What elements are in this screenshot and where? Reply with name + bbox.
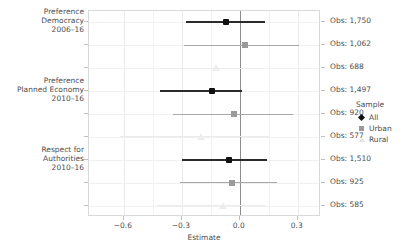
- obs-count-label: Obs: 1,750: [330, 16, 371, 25]
- estimate-point-marker: [229, 180, 235, 186]
- y-axis-tick: [84, 159, 88, 160]
- confidence-interval-bar: [157, 205, 265, 206]
- legend-item-urban[interactable]: Urban: [356, 123, 392, 134]
- x-axis-tick-label: 0.0: [219, 221, 259, 230]
- y-axis-label-line: Authorities: [4, 154, 84, 163]
- x-axis-tick-label: −0.3: [161, 221, 201, 230]
- confidence-interval-bar: [120, 136, 269, 137]
- y-axis-tick-minor: [84, 182, 88, 183]
- obs-axis-tick: [321, 113, 325, 114]
- y-axis-label-line: Respect for: [4, 145, 84, 154]
- obs-axis-tick: [321, 21, 325, 22]
- x-axis-tick: [297, 216, 298, 220]
- plot-area: [89, 11, 319, 215]
- estimate-point-marker: [231, 111, 237, 117]
- estimate-row: [89, 82, 319, 100]
- confidence-interval-bar: [157, 68, 263, 69]
- estimate-point-marker: [219, 202, 227, 209]
- y-axis-label-line: Preference: [4, 76, 84, 85]
- legend-item-rural[interactable]: Rural: [356, 134, 392, 145]
- legend-label-urban: Urban: [369, 124, 392, 133]
- y-axis-group-label: PreferencePlanned Economy2010–16: [4, 76, 84, 103]
- legend-item-all[interactable]: All: [356, 112, 392, 123]
- legend: Sample All Urban Rural: [356, 100, 392, 145]
- x-axis-tick-label: −0.6: [103, 221, 143, 230]
- legend-label-rural: Rural: [369, 135, 388, 144]
- x-axis-tick: [239, 216, 240, 220]
- y-axis-tick: [84, 90, 88, 91]
- y-axis-tick-minor: [84, 67, 88, 68]
- y-axis-group-label: PreferenceDemocracy2006–16: [4, 7, 84, 34]
- obs-count-label: Obs: 1,062: [330, 39, 371, 48]
- obs-count-label: Obs: 1,510: [330, 154, 371, 163]
- estimate-row: [89, 105, 319, 123]
- obs-count-label: Obs: 925: [330, 177, 364, 186]
- diamond-marker-icon: [356, 115, 367, 120]
- x-axis-tick-label: 0.3: [277, 221, 317, 230]
- estimate-point-marker: [212, 64, 220, 71]
- y-axis-label-line: 2010–16: [4, 94, 84, 103]
- y-axis-label-line: 2006–16: [4, 25, 84, 34]
- y-axis-tick: [84, 21, 88, 22]
- legend-label-all: All: [369, 113, 378, 122]
- y-axis-tick-minor: [84, 136, 88, 137]
- estimate-row: [89, 59, 319, 77]
- obs-axis-tick: [321, 182, 325, 183]
- estimate-point-marker: [223, 19, 229, 25]
- x-axis-title: Estimate: [88, 233, 320, 242]
- estimate-point-marker: [209, 88, 215, 94]
- obs-axis-tick: [321, 205, 325, 206]
- obs-count-label: Obs: 688: [330, 62, 364, 71]
- y-axis-label-line: Planned Economy: [4, 85, 84, 94]
- estimate-point-marker: [197, 133, 205, 140]
- estimate-row: [89, 197, 319, 215]
- estimate-row: [89, 174, 319, 192]
- y-axis-label-line: Democracy: [4, 16, 84, 25]
- estimate-row: [89, 128, 319, 146]
- estimate-row: [89, 151, 319, 169]
- estimate-point-marker: [226, 157, 232, 163]
- confidence-interval-bar: [182, 159, 267, 161]
- plot-panel: [88, 10, 320, 216]
- legend-title: Sample: [356, 100, 392, 109]
- obs-count-label: Obs: 585: [330, 200, 364, 209]
- y-axis-label-line: Preference: [4, 7, 84, 16]
- obs-axis-tick: [321, 136, 325, 137]
- y-axis-tick-minor: [84, 44, 88, 45]
- y-axis-label-line: 2010–16: [4, 163, 84, 172]
- forest-plot: PreferenceDemocracy2006–16PreferencePlan…: [0, 0, 420, 251]
- y-axis-group-label: Respect forAuthorities2010–16: [4, 145, 84, 172]
- estimate-row: [89, 13, 319, 31]
- triangle-marker-icon: [356, 137, 367, 142]
- obs-axis-tick: [321, 90, 325, 91]
- obs-axis-tick: [321, 44, 325, 45]
- confidence-interval-bar: [160, 90, 242, 92]
- x-axis-tick: [181, 216, 182, 220]
- y-axis-tick-minor: [84, 205, 88, 206]
- estimate-point-marker: [242, 42, 248, 48]
- obs-count-label: Obs: 1,497: [330, 85, 371, 94]
- estimate-row: [89, 36, 319, 54]
- obs-axis-tick: [321, 67, 325, 68]
- y-axis-tick-minor: [84, 113, 88, 114]
- square-marker-icon: [356, 126, 367, 131]
- obs-axis-tick: [321, 159, 325, 160]
- x-axis-tick: [123, 216, 124, 220]
